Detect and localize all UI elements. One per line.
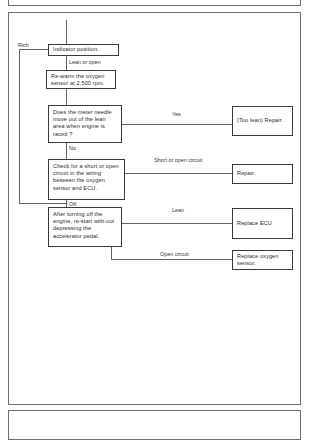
replace-oxygen-sensor-text: Replace oxygen sensor. bbox=[237, 253, 279, 266]
check-circuit-text: Check for a short or open circuit in the… bbox=[53, 163, 119, 191]
lean-or-open-label: Lean or open bbox=[69, 59, 101, 65]
replace-ecu-text: Replace ECU bbox=[237, 220, 272, 227]
indicator-position-text: Indicator position. bbox=[53, 46, 99, 53]
restart-engine-box: After turning off the engine, re-start w… bbox=[48, 207, 122, 247]
rewarm-sensor-box: Re-warm the oxygen sensor at 2,500 rpm. bbox=[46, 70, 116, 89]
too-lean-repair-box: (Too lean) Repair. bbox=[232, 106, 293, 136]
repair-text: Repair. bbox=[237, 170, 255, 177]
ok-label: OK bbox=[69, 201, 77, 207]
rewarm-sensor-text: Re-warm the oxygen sensor at 2,500 rpm. bbox=[51, 73, 104, 86]
short-or-open-label: Short or open circuit bbox=[154, 157, 202, 163]
rich-label: Rich bbox=[18, 42, 29, 48]
replace-oxygen-sensor-box: Replace oxygen sensor. bbox=[232, 250, 293, 270]
restart-engine-text: After turning off the engine, re-start w… bbox=[53, 211, 114, 239]
lean-label: Lean bbox=[172, 207, 184, 213]
too-lean-repair-text: (Too lean) Repair. bbox=[237, 117, 283, 124]
needle-question-box: Does the meter needle move out of the le… bbox=[48, 105, 122, 143]
replace-ecu-box: Replace ECU bbox=[232, 208, 293, 239]
check-circuit-box: Check for a short or open circuit in the… bbox=[48, 159, 125, 200]
open-circuit-label: Open circuit bbox=[160, 251, 189, 257]
yes-label: Yes bbox=[172, 111, 181, 117]
repair-box: Repair. bbox=[232, 164, 293, 184]
needle-question-text: Does the meter needle move out of the le… bbox=[53, 109, 112, 137]
no-label: No bbox=[69, 145, 76, 151]
indicator-position-box: Indicator position. bbox=[48, 44, 119, 56]
